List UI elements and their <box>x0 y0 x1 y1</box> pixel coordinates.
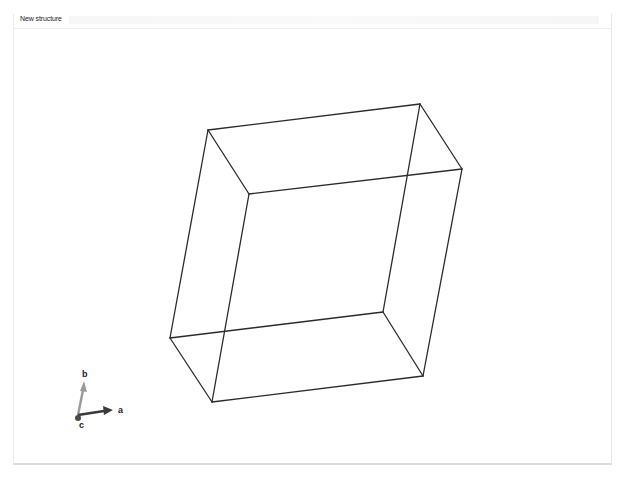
edge <box>423 169 462 376</box>
edge <box>383 104 420 312</box>
edge <box>170 130 208 338</box>
edge <box>208 130 249 194</box>
edge <box>170 338 212 402</box>
structure-viewport[interactable]: b a c <box>0 0 622 479</box>
a-axis-label: a <box>118 405 124 415</box>
edge <box>420 104 462 169</box>
b-axis-label: b <box>82 369 88 379</box>
a-axis-arrowhead-icon <box>103 406 113 415</box>
edge <box>383 312 423 376</box>
edge <box>249 169 462 194</box>
edge <box>212 376 423 402</box>
axes-indicator: b a c <box>75 369 124 430</box>
b-axis-arrow <box>78 390 83 415</box>
c-axis-label: c <box>79 420 84 430</box>
b-axis-arrowhead-icon <box>80 381 87 392</box>
unit-cell-box <box>170 104 462 402</box>
a-axis-arrow <box>78 411 104 415</box>
edge <box>212 194 249 402</box>
edge <box>170 312 383 338</box>
edge <box>208 104 420 130</box>
